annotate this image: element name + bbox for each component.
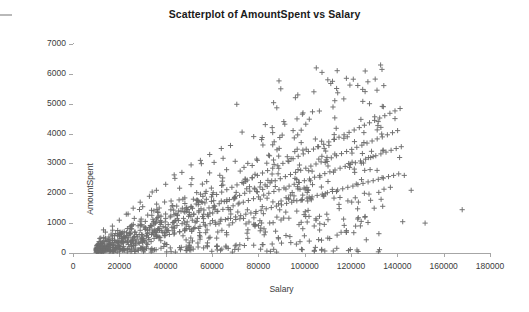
y-tick-label: 3000	[26, 157, 66, 167]
chart-title: Scatterplot of AmountSpent vs Salary	[0, 8, 529, 20]
y-tick-label: 5000	[26, 98, 66, 108]
x-tick-mark	[490, 253, 491, 257]
plot-area: AmountSpent	[73, 44, 490, 253]
y-axis-title: AmountSpent	[85, 144, 95, 234]
x-axis-title: Salary	[73, 284, 490, 294]
y-tick-label: 2000	[26, 187, 66, 197]
y-tick-label: 7000	[26, 38, 66, 48]
scatterplot-chart: Scatterplot of AmountSpent vs Salary 010…	[0, 0, 529, 312]
y-tick-label: 0	[26, 247, 66, 257]
y-tick-label: 4000	[26, 128, 66, 138]
x-tick-label: 180000	[460, 261, 520, 271]
y-tick-label: 1000	[26, 217, 66, 227]
data-markers	[73, 44, 490, 253]
y-tick-label: 6000	[26, 68, 66, 78]
